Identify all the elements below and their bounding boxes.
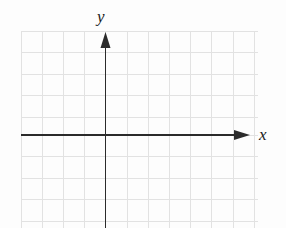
x-axis-label: x — [259, 126, 267, 143]
grid-lines — [21, 31, 258, 228]
y-axis — [101, 32, 111, 228]
x-axis-arrowhead — [234, 130, 250, 140]
x-axis — [21, 130, 250, 140]
coordinate-grid-figure: x y — [0, 0, 286, 228]
coordinate-plane — [0, 0, 286, 228]
y-axis-label: y — [97, 8, 105, 25]
y-axis-arrowhead — [101, 32, 111, 48]
